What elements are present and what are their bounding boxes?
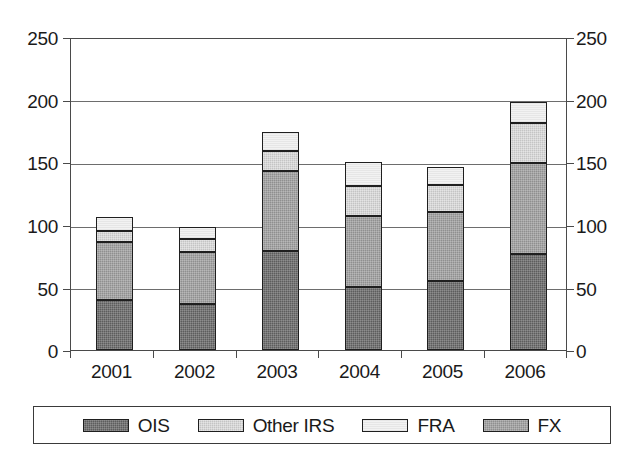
- tick-mark-x-1: [153, 351, 154, 358]
- tick-mark-right-100: [567, 226, 574, 227]
- tick-mark-left-150: [63, 163, 70, 164]
- x-axis-label-2004: 2004: [318, 362, 401, 381]
- legend-swatch-fx-icon: [483, 419, 529, 432]
- y-axis-right-tick-0: 0: [576, 342, 586, 361]
- bar-segment-fra-2001[interactable]: [96, 217, 133, 231]
- legend-item-other-irs[interactable]: Other IRS: [198, 416, 335, 435]
- chart-legend: OIS Other IRS FRA FX: [33, 406, 611, 444]
- tick-mark-x-2: [236, 351, 237, 358]
- x-axis-label-2003: 2003: [236, 362, 318, 381]
- y-axis-left-tick-100: 100: [27, 217, 58, 236]
- y-axis-right-tick-200: 200: [576, 92, 607, 111]
- legend-label-other-irs: Other IRS: [253, 416, 335, 435]
- bar-segment-ois-2004[interactable]: [345, 287, 382, 350]
- bar-segment-other-irs-2006[interactable]: [510, 123, 547, 163]
- tick-mark-left-100: [63, 226, 70, 227]
- legend-swatch-fra-icon: [362, 419, 408, 432]
- tick-mark-right-150: [567, 163, 574, 164]
- y-axis-left-tick-0: 0: [48, 342, 58, 361]
- bar-segment-other-irs-2001[interactable]: [96, 231, 133, 242]
- bar-group-2001[interactable]: [96, 217, 133, 350]
- bar-group-2005[interactable]: [427, 167, 464, 350]
- tick-mark-x-end: [566, 351, 567, 358]
- bar-segment-fra-2003[interactable]: [262, 132, 299, 151]
- legend-swatch-ois-icon: [83, 419, 129, 432]
- bar-segment-fx-2006[interactable]: [510, 163, 547, 253]
- bar-segment-fx-2001[interactable]: [96, 242, 133, 300]
- bar-segment-fra-2005[interactable]: [427, 167, 464, 185]
- gridline-50: [71, 289, 566, 290]
- bar-segment-fx-2003[interactable]: [262, 171, 299, 251]
- bar-group-2003[interactable]: [262, 132, 299, 350]
- bar-segment-fra-2002[interactable]: [179, 227, 216, 238]
- tick-mark-right-50: [567, 289, 574, 290]
- legend-swatch-other-irs-icon: [198, 419, 244, 432]
- y-axis-right-tick-150: 150: [576, 154, 607, 173]
- legend-item-ois[interactable]: OIS: [83, 416, 170, 435]
- tick-mark-right-250: [567, 38, 574, 39]
- bar-segment-other-irs-2005[interactable]: [427, 185, 464, 213]
- tick-mark-left-250: [63, 38, 70, 39]
- bar-segment-ois-2001[interactable]: [96, 300, 133, 350]
- gridline-100: [71, 227, 566, 228]
- bar-group-2004[interactable]: [345, 162, 382, 350]
- tick-mark-left-0: [63, 351, 70, 352]
- y-axis-right-tick-250: 250: [576, 29, 607, 48]
- bar-segment-fx-2005[interactable]: [427, 212, 464, 281]
- gridline-200: [71, 101, 566, 102]
- bar-group-2002[interactable]: [179, 227, 216, 350]
- stacked-bar-chart: 250 200 150 100 50 0 250 200 150 100 50 …: [0, 0, 644, 457]
- tick-mark-x-start: [70, 351, 71, 358]
- legend-item-fx[interactable]: FX: [483, 416, 562, 435]
- bar-segment-ois-2002[interactable]: [179, 304, 216, 350]
- x-axis-label-2006: 2006: [484, 362, 566, 381]
- bar-segment-ois-2003[interactable]: [262, 251, 299, 350]
- legend-label-fx: FX: [538, 416, 562, 435]
- bar-segment-other-irs-2002[interactable]: [179, 239, 216, 253]
- bar-segment-fra-2006[interactable]: [510, 102, 547, 123]
- bar-segment-fra-2004[interactable]: [345, 162, 382, 186]
- tick-mark-x-4: [401, 351, 402, 358]
- bar-segment-other-irs-2003[interactable]: [262, 151, 299, 171]
- bar-segment-other-irs-2004[interactable]: [345, 186, 382, 216]
- legend-label-fra: FRA: [417, 416, 454, 435]
- bar-segment-ois-2005[interactable]: [427, 281, 464, 350]
- y-axis-left-tick-150: 150: [27, 154, 58, 173]
- y-axis-right-tick-100: 100: [576, 217, 607, 236]
- plot-area: [70, 38, 567, 351]
- bar-segment-fx-2004[interactable]: [345, 216, 382, 287]
- bar-segment-ois-2006[interactable]: [510, 254, 547, 350]
- bar-segment-fx-2002[interactable]: [179, 252, 216, 303]
- tick-mark-right-0: [567, 351, 574, 352]
- bar-group-2006[interactable]: [510, 102, 547, 350]
- x-axis-label-2005: 2005: [401, 362, 484, 381]
- tick-mark-x-3: [318, 351, 319, 358]
- legend-label-ois: OIS: [138, 416, 170, 435]
- x-axis-label-2002: 2002: [153, 362, 236, 381]
- x-axis-label-2001: 2001: [70, 362, 153, 381]
- y-axis-left-tick-250: 250: [27, 29, 58, 48]
- gridline-150: [71, 164, 566, 165]
- tick-mark-right-200: [567, 101, 574, 102]
- tick-mark-left-200: [63, 101, 70, 102]
- tick-mark-left-50: [63, 289, 70, 290]
- y-axis-right-tick-50: 50: [576, 280, 597, 299]
- y-axis-left-tick-50: 50: [37, 280, 58, 299]
- legend-item-fra[interactable]: FRA: [362, 416, 454, 435]
- y-axis-left-tick-200: 200: [27, 92, 58, 111]
- tick-mark-x-5: [484, 351, 485, 358]
